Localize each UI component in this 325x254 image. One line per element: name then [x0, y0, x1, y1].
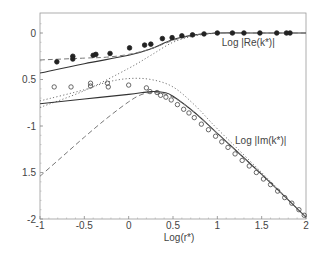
data-point-im-data-open — [181, 107, 185, 111]
data-point-im-data-open — [187, 111, 191, 115]
data-point-re-data-filled — [108, 51, 113, 56]
data-point-re-data-filled — [142, 43, 147, 48]
series-line-re-model-dotted — [40, 33, 217, 107]
data-point-re-data-filled — [71, 54, 76, 59]
data-point-re-data-filled — [242, 31, 247, 36]
series-line-im-model-solid — [40, 91, 306, 217]
data-point-im-data-open — [126, 83, 130, 87]
data-point-im-data-open — [144, 86, 148, 90]
data-point-re-data-filled — [215, 31, 220, 36]
series-group — [40, 31, 306, 218]
data-point-re-data-filled — [149, 42, 154, 47]
y-tick-label: -2 — [27, 214, 36, 225]
data-point-re-data-filled — [258, 31, 263, 36]
chart: -1-0.500.511.5200.5-11.5-2 Log(r*) Log |… — [0, 0, 325, 254]
data-point-re-data-filled — [274, 31, 279, 36]
data-point-im-data-open — [199, 122, 203, 126]
data-point-im-data-open — [226, 145, 230, 149]
data-point-re-data-filled — [180, 33, 185, 38]
data-point-im-data-open — [175, 102, 179, 106]
annotation-re: Log |Re(k*)| — [222, 37, 275, 48]
x-tick-label: 2 — [303, 220, 309, 231]
data-point-re-data-filled — [170, 35, 175, 40]
data-point-im-data-open — [158, 93, 162, 97]
y-tick-label: 0 — [30, 28, 36, 39]
x-tick-label: -0.5 — [76, 220, 94, 231]
y-tick-label: 0.5 — [22, 74, 36, 85]
data-point-im-data-open — [233, 152, 237, 156]
x-tick-label: 1 — [215, 220, 221, 231]
data-point-im-data-open — [261, 177, 265, 181]
data-point-re-data-filled — [127, 46, 132, 51]
data-point-im-data-open — [52, 85, 56, 89]
data-point-im-data-open — [220, 140, 224, 144]
y-tick-label: 1.5 — [22, 167, 36, 178]
x-tick-label: 1.5 — [255, 220, 269, 231]
x-tick-label: 0 — [126, 220, 132, 231]
data-point-im-data-open — [69, 85, 73, 89]
data-point-im-data-open — [164, 95, 168, 99]
data-point-im-data-open — [213, 134, 217, 138]
data-point-re-data-filled — [94, 52, 99, 57]
x-axis-label: Log(r*) — [164, 232, 195, 243]
data-point-re-data-filled — [288, 31, 293, 36]
x-tick-label: -1 — [36, 220, 45, 231]
y-tick-label: -1 — [27, 121, 36, 132]
data-point-im-data-open — [206, 128, 210, 132]
data-point-im-data-open — [192, 115, 196, 119]
data-point-re-data-filled — [202, 32, 207, 37]
axis-ticks: -1-0.500.511.5200.5-11.5-2 — [22, 24, 309, 231]
data-point-im-data-open — [254, 170, 258, 174]
data-point-re-data-filled — [55, 60, 60, 65]
annotation-im: Log |Im(k*)| — [235, 135, 286, 146]
x-tick-label: 0.5 — [166, 220, 180, 231]
data-point-im-data-open — [240, 158, 244, 162]
series-line-im-model-dashed — [40, 92, 306, 217]
data-point-im-data-open — [247, 164, 251, 168]
data-point-re-data-filled — [190, 33, 195, 38]
data-point-im-data-open — [169, 98, 173, 102]
annotations: Log |Re(k*)|Log |Im(k*)| — [222, 37, 287, 146]
data-point-re-data-filled — [160, 36, 165, 41]
data-point-re-data-filled — [230, 31, 235, 36]
